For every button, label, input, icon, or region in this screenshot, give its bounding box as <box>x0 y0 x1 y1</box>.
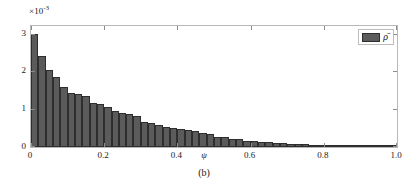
bar <box>104 107 111 147</box>
bar <box>214 137 221 147</box>
bar <box>38 56 45 147</box>
x-axis-tick-label: 0.2 <box>98 150 109 161</box>
x-axis-tick-top <box>396 26 397 30</box>
bar <box>75 94 82 147</box>
bar <box>185 130 192 147</box>
bar <box>199 133 206 147</box>
figure-panel-b: ×10-3 ρ̄ 00.20.40.60.81.0 0123 ψ (b) <box>0 0 410 187</box>
bar <box>155 125 162 147</box>
x-axis-tick <box>177 143 178 147</box>
legend-box[interactable]: ρ̄ <box>358 29 394 45</box>
bar <box>280 143 287 147</box>
bar <box>324 145 331 147</box>
y-axis-tick <box>31 34 35 35</box>
y-axis-tick <box>31 146 35 147</box>
legend-label-rho-bar: ρ̄ <box>383 32 389 42</box>
bar <box>346 145 353 147</box>
bar <box>148 123 155 147</box>
legend-swatch-rho-bar <box>362 33 380 42</box>
bar <box>353 145 360 147</box>
x-axis-tick-label: 0.4 <box>171 150 182 161</box>
bar <box>177 129 184 147</box>
bar <box>229 139 236 147</box>
subfigure-caption: (b) <box>198 167 210 179</box>
bar <box>360 145 367 147</box>
bar <box>119 113 126 147</box>
bar <box>265 142 272 147</box>
bar <box>192 131 199 147</box>
x-axis-tick-label: 0.8 <box>317 150 328 161</box>
bar <box>287 144 294 147</box>
x-axis-tick <box>324 143 325 147</box>
bar <box>97 104 104 147</box>
bar <box>163 127 170 147</box>
y-axis-tick-right <box>393 146 397 147</box>
bar <box>295 144 302 147</box>
bar <box>68 93 75 147</box>
bars-layer <box>31 26 397 147</box>
y-axis-tick-right <box>393 71 397 72</box>
bar <box>258 142 265 147</box>
y-axis-tick-label: 1 <box>22 103 27 114</box>
bar <box>60 87 67 148</box>
y-axis-tick <box>31 109 35 110</box>
bar <box>90 103 97 147</box>
bar <box>338 145 345 147</box>
y-axis-tick-right <box>393 109 397 110</box>
y-axis-multiplier-exponent: -3 <box>43 4 49 11</box>
bar <box>382 145 389 147</box>
x-axis-tick-label: 0.6 <box>244 150 255 161</box>
bar <box>221 137 228 147</box>
bar <box>251 141 258 147</box>
bar <box>112 111 119 147</box>
bar <box>368 145 375 147</box>
bar <box>207 134 214 147</box>
bar <box>375 145 382 147</box>
x-axis-tick-top <box>251 26 252 30</box>
x-axis-tick-label: 0 <box>28 150 33 161</box>
bar <box>126 114 133 147</box>
bar <box>302 144 309 147</box>
y-axis-tick-label: 2 <box>22 65 27 76</box>
x-axis-tick-label: 1.0 <box>390 150 401 161</box>
bar <box>46 70 53 147</box>
bar <box>53 77 60 147</box>
x-axis-tick-top <box>324 26 325 30</box>
bar <box>273 143 280 147</box>
bar <box>141 122 148 147</box>
bar <box>331 145 338 147</box>
bar <box>309 145 316 147</box>
y-axis-multiplier-base: ×10 <box>29 6 43 16</box>
bar <box>82 96 89 147</box>
y-axis-tick <box>31 71 35 72</box>
x-axis-tick <box>104 143 105 147</box>
x-axis-title: ψ <box>201 150 207 161</box>
x-axis-tick-top <box>177 26 178 30</box>
plot-area: ρ̄ <box>30 25 398 148</box>
bar <box>31 34 38 147</box>
x-axis-tick <box>251 143 252 147</box>
bar <box>243 141 250 147</box>
bar <box>316 145 323 147</box>
y-axis-multiplier-label: ×10-3 <box>29 6 49 17</box>
x-axis-tick-top <box>31 26 32 30</box>
bar <box>170 128 177 147</box>
x-axis-tick-top <box>104 26 105 30</box>
bar <box>236 139 243 147</box>
y-axis-tick-label: 0 <box>22 141 27 152</box>
bar <box>133 116 140 147</box>
y-axis-tick-label: 3 <box>22 27 27 38</box>
